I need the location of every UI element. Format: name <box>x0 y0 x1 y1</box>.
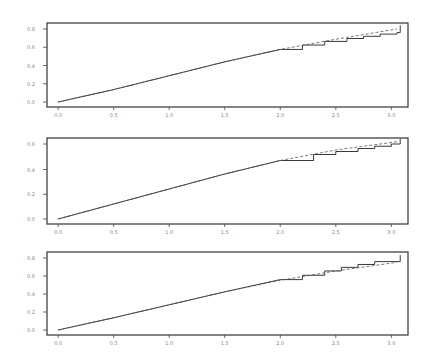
x-tick-label: 0.5 <box>110 340 118 346</box>
x-tick-label: 2.5 <box>332 112 340 118</box>
x-tick-label: 3.0 <box>387 340 395 346</box>
x-tick-label: 1.5 <box>221 229 229 235</box>
x-tick-label: 2.0 <box>276 340 284 346</box>
plot-frame <box>47 252 408 335</box>
y-tick-label: 0.2 <box>27 309 35 315</box>
y-tick-label: 0.2 <box>27 81 35 87</box>
series-empirical-step <box>58 139 400 219</box>
x-tick-label: 1.0 <box>165 229 173 235</box>
panel-1: 0.00.51.01.52.02.53.00.00.20.40.60.8 <box>27 23 408 118</box>
series-fitted-dashed <box>58 142 397 219</box>
x-tick-label: 0.0 <box>54 112 62 118</box>
y-tick-label: 0.8 <box>27 255 35 261</box>
y-tick-label: 0.6 <box>27 141 35 147</box>
y-tick-label: 0.8 <box>27 26 35 32</box>
x-tick-label: 1.5 <box>221 340 229 346</box>
panel-3: 0.00.51.01.52.02.53.00.00.20.40.60.8 <box>27 252 408 346</box>
x-tick-label: 1.0 <box>165 112 173 118</box>
y-tick-label: 0.0 <box>27 216 35 222</box>
y-tick-label: 0.0 <box>27 327 35 333</box>
x-tick-label: 3.0 <box>387 229 395 235</box>
chart-figure: 0.00.51.01.52.02.53.00.00.20.40.60.80.00… <box>0 0 430 359</box>
x-tick-label: 1.0 <box>165 340 173 346</box>
y-tick-label: 0.2 <box>27 191 35 197</box>
x-tick-label: 0.0 <box>54 340 62 346</box>
series-fitted-dashed <box>58 29 397 102</box>
y-tick-label: 0.6 <box>27 273 35 279</box>
y-tick-label: 0.4 <box>27 291 35 297</box>
x-tick-label: 2.5 <box>332 340 340 346</box>
plot-frame <box>47 138 408 224</box>
x-tick-label: 2.5 <box>332 229 340 235</box>
y-tick-label: 0.6 <box>27 44 35 50</box>
x-tick-label: 0.5 <box>110 112 118 118</box>
x-tick-label: 2.0 <box>276 112 284 118</box>
y-tick-label: 0.0 <box>27 99 35 105</box>
x-tick-label: 2.0 <box>276 229 284 235</box>
x-tick-label: 0.0 <box>54 229 62 235</box>
plot-frame <box>47 23 408 107</box>
x-tick-label: 3.0 <box>387 112 395 118</box>
x-tick-label: 1.5 <box>221 112 229 118</box>
x-tick-label: 0.5 <box>110 229 118 235</box>
y-tick-label: 0.4 <box>27 167 35 173</box>
series-fitted-dashed <box>58 262 397 330</box>
y-tick-label: 0.4 <box>27 63 35 69</box>
panel-2: 0.00.51.01.52.02.53.00.00.20.40.6 <box>27 138 408 235</box>
